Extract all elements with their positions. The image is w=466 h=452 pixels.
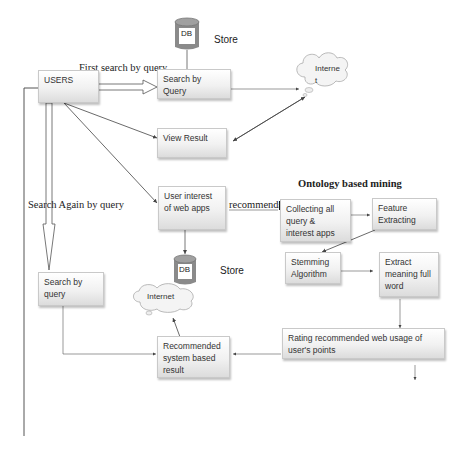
db-label-top: DB (181, 29, 192, 38)
node-extract-word: Extract meaning full word (379, 252, 439, 297)
internet-label-top-2: t (315, 76, 317, 85)
store-label-mid: Store (220, 265, 244, 276)
node-users: USERS (38, 70, 99, 103)
internet-label-top-1: Interne (315, 64, 340, 73)
internet-cloud-top (297, 53, 348, 97)
node-search-by-query-2: Search by query (38, 272, 104, 306)
node-search-by-query: Search by Query (157, 69, 231, 99)
db-label-mid: DB (179, 265, 190, 274)
node-recommended-result: Recommended system based result (157, 336, 230, 378)
recommends-label: recommends (229, 199, 283, 210)
store-label-top: Store (214, 34, 238, 45)
node-feature-extracting: Feature Extracting (372, 198, 437, 230)
node-stemming: Stemming Algorithm (285, 252, 341, 284)
node-collecting: Collecting all query & interest apps (280, 199, 351, 242)
ontology-title: Ontology based mining (298, 178, 402, 189)
node-user-interest: User interest of web apps (158, 186, 226, 230)
internet-label-bottom: Internet (147, 292, 174, 301)
node-rating: Rating recommended web usage of user's p… (282, 328, 445, 359)
search-again-label: Search Again by query (28, 199, 124, 210)
node-view-result: View Result (157, 128, 227, 158)
